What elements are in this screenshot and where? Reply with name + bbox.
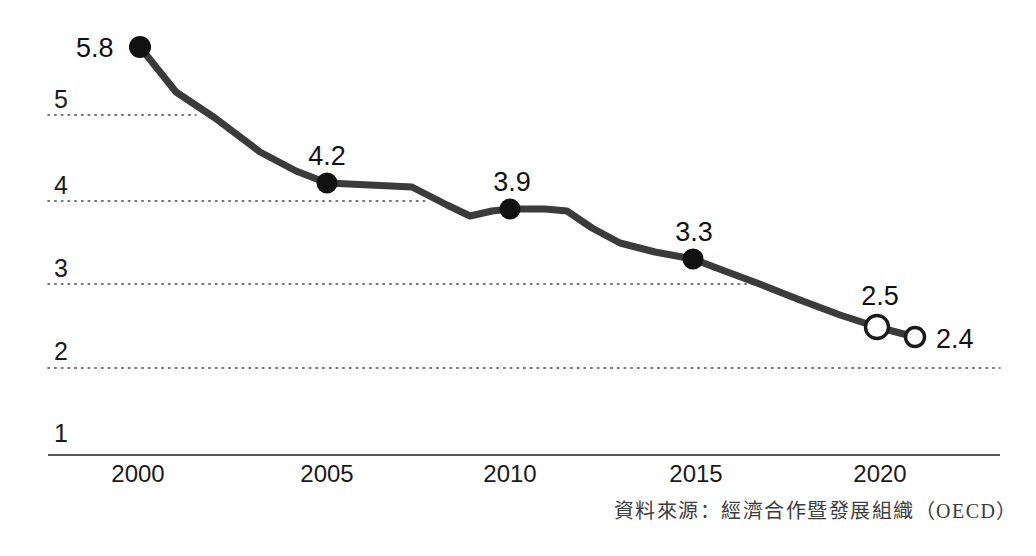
data-label-2005: 4.2 <box>308 141 346 171</box>
data-label-2021: 2.4 <box>936 324 974 354</box>
data-label-2015: 3.3 <box>675 217 713 247</box>
data-point-2020[interactable] <box>866 316 889 339</box>
x-tick-2015: 2015 <box>669 460 722 487</box>
data-label-2020: 2.5 <box>861 281 899 311</box>
chart-container: 5 4 3 2 1 5.8 4.2 3.9 3.3 2.5 2.4 2000 2… <box>0 0 1036 556</box>
y-tick-5: 5 <box>54 85 68 113</box>
data-point-2015[interactable] <box>683 249 704 270</box>
y-tick-4: 4 <box>54 171 68 199</box>
data-point-2005[interactable] <box>317 173 338 194</box>
y-tick-2: 2 <box>54 337 68 365</box>
data-label-2010: 3.9 <box>493 167 531 197</box>
x-tick-2005: 2005 <box>300 460 353 487</box>
x-tick-2010: 2010 <box>483 460 536 487</box>
y-tick-3: 3 <box>54 254 68 282</box>
source-note: 資料來源：經濟合作暨發展組織（OECD） <box>614 495 1018 524</box>
data-label-2000: 5.8 <box>76 33 114 63</box>
line-chart: 5 4 3 2 1 5.8 4.2 3.9 3.3 2.5 2.4 2000 2… <box>0 0 1036 556</box>
y-tick-1: 1 <box>54 419 68 447</box>
data-point-2000[interactable] <box>129 36 151 58</box>
data-point-2010[interactable] <box>500 199 521 220</box>
x-tick-2020: 2020 <box>853 460 906 487</box>
x-tick-2000: 2000 <box>111 460 164 487</box>
data-point-2021[interactable] <box>906 328 925 347</box>
